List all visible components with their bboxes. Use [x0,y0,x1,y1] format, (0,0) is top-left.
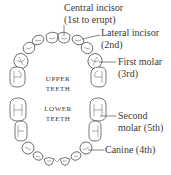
label-first-molar-line2: (3rd) [118,68,162,80]
lower-teeth-label: Lower teeth [36,103,80,123]
label-second-molar-line2: molar (5th) [118,122,163,134]
upper-teeth-label: Upper teeth [36,73,80,93]
label-second-molar-line1: Second [118,110,163,122]
lower-teeth-label-line2: teeth [36,113,80,123]
upper-teeth-label-line2: teeth [36,83,80,93]
upper-central-incisor-left [46,32,58,43]
label-lateral-incisor-line2: (2nd) [101,39,159,51]
label-lateral-incisor-line1: Lateral incisor [101,27,159,39]
label-second-molar: Second molar (5th) [118,110,163,134]
label-central-incisor-line1: Central incisor [64,2,123,14]
label-first-molar-line1: First molar [118,56,162,68]
label-first-molar: First molar (3rd) [118,56,162,80]
dental-diagram: Central incisor (1st to erupt) Lateral i… [0,0,171,175]
label-canine: Canine (4th) [105,144,155,156]
label-central-incisor-line2: (1st to erupt) [64,14,123,26]
label-canine-line1: Canine (4th) [105,144,155,156]
leader-lateral-incisor [82,35,100,39]
label-lateral-incisor: Lateral incisor (2nd) [101,27,159,51]
label-central-incisor: Central incisor (1st to erupt) [64,2,123,26]
